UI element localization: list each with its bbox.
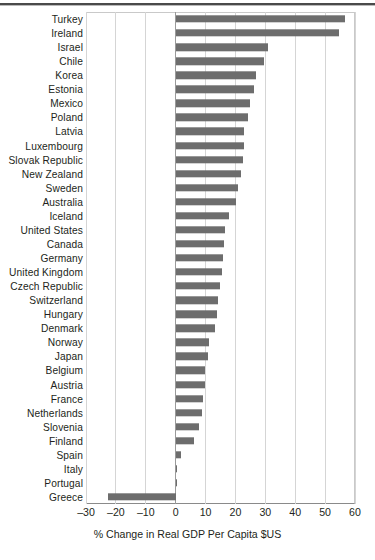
category-label: Italy	[64, 463, 83, 474]
bar	[176, 296, 218, 303]
bar	[176, 170, 241, 177]
bar-row: Mexico	[0, 96, 375, 110]
category-label: Norway	[48, 337, 83, 348]
bar-row: Portugal	[0, 476, 375, 490]
category-label: Slovenia	[43, 421, 83, 432]
bar-row: Turkey	[0, 12, 375, 26]
bar	[176, 311, 217, 318]
bar-row: Finland	[0, 434, 375, 448]
bar-row: Germany	[0, 251, 375, 265]
bar	[176, 465, 177, 472]
bar-row: Canada	[0, 237, 375, 251]
category-label: Sweden	[46, 182, 83, 193]
category-label: Portugal	[44, 477, 83, 488]
bar-row: Australia	[0, 195, 375, 209]
category-label: Israel	[57, 42, 83, 53]
bar	[176, 15, 345, 22]
x-tick-60: 60	[349, 506, 361, 519]
bar-row: Czech Republic	[0, 279, 375, 293]
bar-row: Greece	[0, 490, 375, 504]
bar	[176, 43, 269, 50]
category-label: Netherlands	[27, 407, 83, 418]
bar-row: Hungary	[0, 307, 375, 321]
bar-row: Japan	[0, 349, 375, 363]
bar	[176, 479, 177, 486]
bar-row: Austria	[0, 377, 375, 391]
bar	[176, 381, 205, 388]
category-label: Belgium	[45, 365, 83, 376]
bar	[176, 254, 224, 261]
figure: TurkeyIrelandIsraelChileKoreaEstoniaMexi…	[0, 0, 375, 560]
x-axis-title-text: % Change in Real GDP Per Capita $US	[94, 527, 282, 541]
bar	[176, 353, 209, 360]
bar-row: United States	[0, 223, 375, 237]
category-label: Estonia	[48, 84, 83, 95]
bar-row: Chile	[0, 54, 375, 68]
bar	[176, 156, 243, 163]
x-tick--20: –20	[107, 506, 125, 519]
bar	[176, 437, 194, 444]
category-label: Turkey	[52, 14, 83, 25]
category-label: Spain	[56, 449, 83, 460]
category-label: Iceland	[49, 210, 83, 221]
x-tick-10: 10	[200, 506, 212, 519]
category-label: Czech Republic	[10, 281, 83, 292]
x-tick-0: 0	[173, 506, 179, 519]
category-label: Germany	[40, 252, 83, 263]
x-tick--30: –30	[77, 506, 95, 519]
category-label: Hungary	[44, 309, 83, 320]
category-label: Slovak Republic	[8, 154, 83, 165]
bar	[176, 57, 265, 64]
bar-chart: TurkeyIrelandIsraelChileKoreaEstoniaMexi…	[0, 12, 375, 504]
bar	[176, 367, 206, 374]
bar-row: Italy	[0, 462, 375, 476]
category-label: Luxembourg	[25, 140, 83, 151]
bar	[176, 339, 209, 346]
category-label: Ireland	[51, 28, 83, 39]
bar	[176, 268, 222, 275]
category-label: United Kingdom	[9, 267, 83, 278]
bar-row: Estonia	[0, 82, 375, 96]
bar-row: Israel	[0, 40, 375, 54]
x-tick-40: 40	[289, 506, 301, 519]
bar	[176, 142, 244, 149]
bar-row: Luxembourg	[0, 139, 375, 153]
bar-row: Poland	[0, 110, 375, 124]
category-label: United States	[21, 224, 83, 235]
bar	[176, 184, 238, 191]
bar	[176, 226, 225, 233]
x-tick-20: 20	[230, 506, 242, 519]
bar-row: Latvia	[0, 124, 375, 138]
bar	[176, 212, 230, 219]
category-label: Canada	[47, 238, 83, 249]
category-label: Latvia	[55, 126, 83, 137]
bar	[176, 240, 224, 247]
category-label: New Zealand	[22, 168, 83, 179]
bar	[176, 325, 215, 332]
category-label: Denmark	[41, 323, 83, 334]
bar-row: Belgium	[0, 363, 375, 377]
x-axis-tick-labels: –30–20–100102030405060	[0, 506, 375, 522]
bar-row: Slovak Republic	[0, 153, 375, 167]
bar	[176, 282, 221, 289]
bar-row: Korea	[0, 68, 375, 82]
bar-row: Denmark	[0, 321, 375, 335]
category-label: Japan	[55, 351, 83, 362]
bar	[176, 29, 339, 36]
category-label: Chile	[59, 56, 83, 67]
bar-row: Spain	[0, 448, 375, 462]
x-tick-50: 50	[319, 506, 331, 519]
bar	[176, 423, 199, 430]
bar	[108, 493, 176, 500]
bar	[176, 409, 202, 416]
bar-row: Slovenia	[0, 420, 375, 434]
bar	[176, 72, 257, 79]
bar-row: Iceland	[0, 209, 375, 223]
bar	[176, 198, 236, 205]
category-label: Switzerland	[29, 295, 83, 306]
bar-row: United Kingdom	[0, 265, 375, 279]
bar-row: France	[0, 392, 375, 406]
category-label: Austria	[51, 379, 83, 390]
bar-row: Switzerland	[0, 293, 375, 307]
bar-row: Norway	[0, 335, 375, 349]
